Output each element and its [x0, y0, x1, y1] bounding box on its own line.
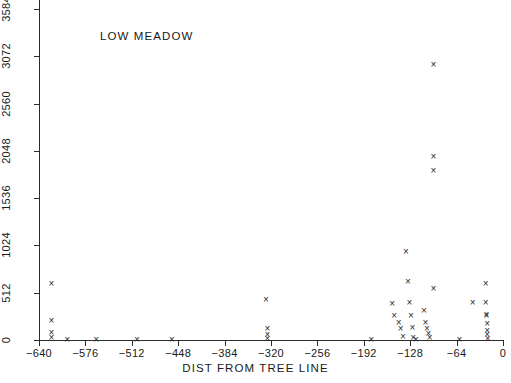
data-point	[389, 300, 396, 307]
x-tick-label: −320	[258, 347, 284, 359]
x-tick-label: −256	[304, 347, 330, 359]
y-tick	[34, 198, 39, 199]
x-tick	[271, 341, 272, 346]
x-tick	[85, 341, 86, 346]
y-tick-label: 2048	[0, 138, 12, 164]
x-tick-label: 0	[500, 347, 506, 359]
x-tick-label: −512	[119, 347, 145, 359]
x-tick	[178, 341, 179, 346]
data-point	[469, 299, 476, 306]
x-tick-label: −64	[447, 347, 467, 359]
data-point	[391, 312, 398, 319]
plot-area: −640−576−512−448−384−320−256−192−128−640…	[0, 0, 511, 383]
y-tick	[34, 104, 39, 105]
data-point	[482, 299, 489, 306]
data-point	[483, 311, 490, 318]
y-tick-label: 3072	[0, 43, 12, 69]
data-point	[484, 327, 491, 334]
x-tick-label: −128	[397, 347, 423, 359]
y-tick	[34, 245, 39, 246]
data-point	[430, 167, 437, 174]
data-point	[409, 324, 416, 331]
y-tick	[34, 293, 39, 294]
data-point	[425, 330, 432, 337]
x-tick	[39, 341, 40, 346]
data-point	[264, 331, 271, 338]
x-tick-label: −640	[26, 347, 52, 359]
y-axis-line	[39, 0, 40, 341]
y-tick-label: 512	[0, 283, 12, 302]
data-point	[264, 325, 271, 332]
data-point	[422, 319, 429, 326]
y-tick-label: 3584	[0, 0, 12, 22]
y-tick-label: 1536	[0, 185, 12, 211]
y-tick-label: 1024	[0, 233, 12, 259]
y-tick	[34, 9, 39, 10]
x-tick-label: −192	[351, 347, 377, 359]
plot-title: LOW MEADOW	[100, 30, 193, 42]
y-tick-label: 2560	[0, 91, 12, 117]
data-point	[423, 325, 430, 332]
scatter-plot-figure: −640−576−512−448−384−320−256−192−128−640…	[0, 0, 511, 383]
data-point	[395, 319, 402, 326]
x-tick	[364, 341, 365, 346]
data-point	[48, 280, 55, 287]
x-tick	[410, 341, 411, 346]
x-axis-label: DIST FROM TREE LINE	[0, 362, 511, 374]
y-tick	[34, 56, 39, 57]
data-point	[430, 61, 437, 68]
x-tick-label: −576	[72, 347, 98, 359]
x-tick	[225, 341, 226, 346]
y-tick	[34, 340, 39, 341]
data-point	[484, 331, 491, 338]
data-point	[483, 312, 490, 319]
data-point	[397, 325, 404, 332]
data-point	[420, 307, 427, 314]
data-point	[482, 280, 489, 287]
data-point	[262, 296, 269, 303]
y-tick	[34, 151, 39, 152]
x-tick-label: −448	[165, 347, 191, 359]
x-tick	[317, 341, 318, 346]
data-point	[405, 278, 412, 285]
data-point	[430, 285, 437, 292]
data-point	[48, 317, 55, 324]
data-point	[430, 153, 437, 160]
data-point	[484, 320, 491, 327]
data-point	[48, 329, 55, 336]
y-tick-label: 0	[0, 337, 12, 343]
data-point	[406, 299, 413, 306]
data-point	[407, 312, 414, 319]
x-tick-label: −384	[212, 347, 238, 359]
data-point	[402, 248, 409, 255]
x-tick	[457, 341, 458, 346]
x-tick	[132, 341, 133, 346]
x-tick	[503, 341, 504, 346]
